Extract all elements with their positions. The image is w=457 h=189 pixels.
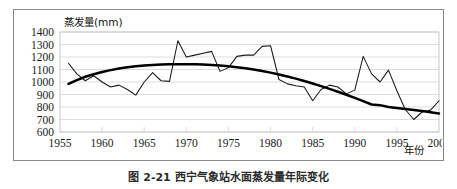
figure-caption: 图 2-21 西宁气象站水面蒸发量年际变化 [0,166,457,189]
y-axis-tick-label: 1000 [31,76,54,88]
x-axis-tick-label: 1970 [175,137,198,149]
x-axis-tick-label: 2000 [428,137,443,149]
chart-frame: 14001300120011001000900800700600 1955196… [13,9,444,161]
y-axis-tick-label: 900 [37,89,55,101]
y-axis-tick-label: 800 [37,101,55,113]
x-axis-tick-label: 1965 [133,137,156,149]
x-axis-tick-label: 1975 [217,137,240,149]
y-axis-tick-label: 1100 [31,64,54,76]
y-axis-tick-label: 1200 [31,51,54,63]
y-axis-tick-label: 1400 [31,26,54,38]
x-axis-tick-label: 1985 [301,137,324,149]
y-axis-tick-label: 1300 [31,39,54,51]
series-trend-line [68,64,439,113]
x-axis-ticks: 1955196019651970197519801985199019952000 [49,137,443,149]
x-axis-tick-label: 1955 [49,137,72,149]
x-axis-tick-label: 1980 [259,137,282,149]
series-annual-evaporation [68,41,439,120]
x-axis-tick-label: 1960 [91,137,114,149]
x-axis-tick-label: 1990 [343,137,366,149]
x-axis-title: 年份 [404,144,425,156]
y-axis-ticks: 14001300120011001000900800700600 [31,26,54,138]
figure-container: 14001300120011001000900800700600 1955196… [0,0,457,189]
y-axis-tick-label: 700 [37,114,55,126]
evaporation-line-chart: 14001300120011001000900800700600 1955196… [14,10,442,159]
x-tick-marks [102,127,397,132]
y-axis-title: 蒸发量(mm) [64,16,123,28]
gridlines [60,32,439,132]
